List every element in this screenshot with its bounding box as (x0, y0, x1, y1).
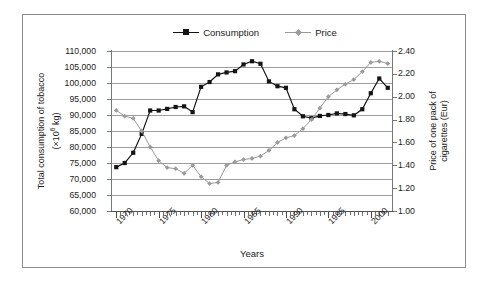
x-axis-minor-tick (239, 212, 240, 215)
x-axis-minor-tick (154, 212, 155, 215)
x-axis-minor-tick (316, 212, 317, 215)
y-axis-left-tick-mark (107, 115, 111, 116)
data-point-consumption (292, 107, 296, 111)
y-axis-right-tick-mark (393, 74, 397, 75)
data-point-consumption (114, 165, 118, 169)
x-axis-minor-tick (307, 212, 308, 215)
y-axis-right-tick-label: 2.20 (398, 69, 415, 78)
x-axis-minor-tick (362, 212, 363, 216)
x-axis-minor-tick (222, 212, 223, 215)
y-axis-left-tick-label: 80,000 (69, 143, 96, 152)
x-axis-minor-tick (311, 212, 312, 216)
legend-item-price: Price (285, 27, 337, 38)
y-axis-right-tick-mark (393, 165, 397, 166)
y-axis-left-tick-label: 85,000 (69, 127, 96, 136)
x-axis-minor-tick (184, 212, 185, 216)
y-axis-left-tick-mark (107, 83, 111, 84)
data-point-price (377, 59, 382, 64)
data-point-consumption (250, 59, 254, 63)
y-axis-right-tick-label: 1.40 (398, 161, 415, 170)
data-point-consumption (335, 111, 339, 115)
x-axis-minor-tick (137, 212, 138, 215)
data-point-consumption (301, 114, 305, 118)
y-axis-right-tick-mark (393, 211, 397, 212)
y-axis-left-tick-mark (107, 67, 111, 68)
x-axis-minor-tick (142, 212, 143, 216)
y-axis-left-tick-mark (107, 195, 111, 196)
data-point-consumption (241, 62, 245, 66)
legend-marker-price-icon (285, 28, 311, 37)
y-axis-left-tick-label: 60,000 (69, 207, 96, 216)
x-axis-minor-tick (193, 212, 194, 216)
data-point-consumption (207, 80, 211, 84)
legend-label-consumption: Consumption (203, 27, 259, 38)
data-point-consumption (343, 112, 347, 116)
y-axis-left-tick-mark (107, 211, 111, 212)
data-point-price (241, 157, 246, 162)
x-axis-title: Years (112, 248, 392, 259)
y-axis-left-tick-label: 100,000 (65, 79, 96, 88)
data-point-consumption (326, 113, 330, 117)
data-point-consumption (275, 84, 279, 88)
y-axis-right-title: Price of one pack of cigarettes (Eur) (426, 51, 452, 211)
data-point-price (233, 159, 238, 164)
y-axis-left-tick-label: 75,000 (69, 159, 96, 168)
x-axis-minor-tick (350, 212, 351, 215)
y-axis-right-tick-label: 2.00 (398, 92, 415, 101)
legend-item-consumption: Consumption (173, 27, 259, 38)
x-axis-minor-tick (367, 212, 368, 215)
data-point-consumption (284, 86, 288, 90)
x-axis-minor-tick (231, 212, 232, 215)
data-point-price (216, 180, 221, 185)
y-axis-left-tick-label: 95,000 (69, 95, 96, 104)
legend-marker-consumption-icon (173, 28, 199, 37)
x-axis-minor-tick (265, 212, 266, 215)
data-point-price (148, 145, 153, 150)
chart-legend: Consumption Price (150, 24, 360, 40)
data-point-consumption (148, 108, 152, 112)
data-point-consumption (216, 72, 220, 76)
y-axis-left-title: Total consumption of tobacco (×106 kg) (36, 51, 62, 211)
legend-label-price: Price (315, 27, 337, 38)
data-point-consumption (233, 69, 237, 73)
plot-area (112, 51, 392, 211)
x-axis-minor-tick (282, 212, 283, 215)
series-line-price (116, 61, 388, 183)
data-point-consumption (369, 91, 373, 95)
y-axis-left-tick-mark (107, 147, 111, 148)
x-axis-minor-tick (320, 212, 321, 216)
x-axis-minor-tick (150, 212, 151, 216)
y-axis-right-tick-mark (393, 120, 397, 121)
y-axis-right-tick-label: 1.60 (398, 138, 415, 147)
data-point-consumption (258, 62, 262, 66)
y-axis-left-tick-label: 70,000 (69, 175, 96, 184)
y-axis-left-tick-mark (107, 163, 111, 164)
data-point-consumption (267, 79, 271, 83)
data-point-consumption (191, 110, 195, 114)
series-layer (112, 51, 392, 211)
y-axis-left-tick-label: 90,000 (69, 111, 96, 120)
data-point-price (224, 163, 229, 168)
chart-figure: Consumption Price 60,00065,00070,00075,0… (0, 0, 490, 283)
y-axis-right-tick-label: 1.00 (398, 207, 415, 216)
x-axis-minor-tick (277, 212, 278, 216)
data-point-consumption (377, 76, 381, 80)
y-axis-left-tick-mark (107, 179, 111, 180)
x-axis-minor-tick (269, 212, 270, 216)
y-axis-left-tick-label: 110,000 (65, 47, 96, 56)
data-point-consumption (386, 86, 390, 90)
data-point-consumption (182, 104, 186, 108)
y-axis-right-tick-mark (393, 97, 397, 98)
y-axis-left-tick-mark (107, 99, 111, 100)
y-axis-left-tick-label: 65,000 (69, 191, 96, 200)
y-axis-right-tick-mark (393, 188, 397, 189)
data-point-consumption (352, 113, 356, 117)
x-axis-minor-tick (188, 212, 189, 215)
data-point-price (385, 61, 390, 66)
y-axis-left-title-line1: Total consumption of tobacco (36, 73, 46, 190)
y-axis-left-spine (111, 50, 112, 212)
x-axis-minor-tick (235, 212, 236, 216)
data-point-consumption (360, 107, 364, 111)
x-axis-minor-tick (358, 212, 359, 215)
y-axis-right-tick-mark (393, 142, 397, 143)
